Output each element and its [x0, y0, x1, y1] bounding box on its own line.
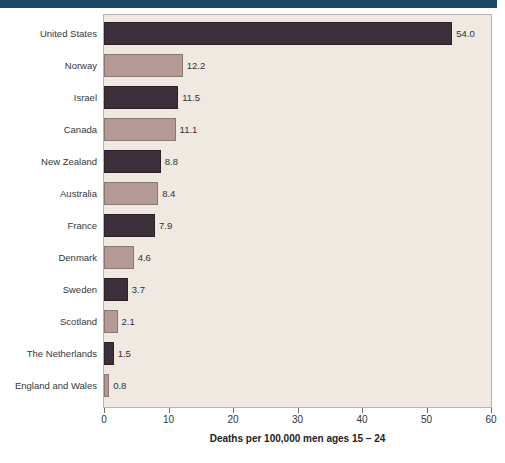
bar-value-label: 8.4 [162, 188, 175, 199]
table-row: France7.9 [0, 209, 505, 241]
bar [104, 310, 118, 333]
table-row: Canada11.1 [0, 113, 505, 145]
bar-group: 1.5 [104, 342, 131, 365]
table-row: Sweden3.7 [0, 273, 505, 305]
bar-value-label: 11.5 [182, 92, 200, 103]
bar-group: 11.5 [104, 86, 200, 109]
x-axis-tick [427, 408, 428, 413]
bar-group: 8.8 [104, 150, 178, 173]
category-label: Israel [0, 92, 97, 103]
bar [104, 54, 183, 77]
table-row: England and Wales0.8 [0, 369, 505, 401]
bar [104, 374, 109, 397]
category-label: Denmark [0, 252, 97, 263]
table-row: Scotland2.1 [0, 305, 505, 337]
x-axis-tick [233, 408, 234, 413]
bar [104, 22, 452, 45]
x-axis-tick [298, 408, 299, 413]
x-axis-tick-label: 0 [101, 414, 107, 425]
x-axis-tick-label: 10 [163, 414, 174, 425]
bar [104, 246, 134, 269]
bar-group: 7.9 [104, 214, 172, 237]
header-band [0, 0, 497, 8]
table-row: The Netherlands1.5 [0, 337, 505, 369]
x-axis-tick-label: 60 [485, 414, 496, 425]
x-axis: Deaths per 100,000 men ages 15 – 24 0102… [0, 408, 505, 463]
bar-group: 8.4 [104, 182, 175, 205]
category-label: Australia [0, 188, 97, 199]
bar [104, 86, 178, 109]
bar-value-label: 12.2 [187, 60, 206, 71]
table-row: New Zealand8.8 [0, 145, 505, 177]
x-axis-tick-label: 40 [356, 414, 367, 425]
category-label: Sweden [0, 284, 97, 295]
bar-group: 12.2 [104, 54, 205, 77]
bar-value-label: 2.1 [122, 316, 135, 327]
category-label: France [0, 220, 97, 231]
x-axis-title: Deaths per 100,000 men ages 15 – 24 [103, 433, 492, 444]
bar [104, 150, 161, 173]
bar-group: 54.0 [104, 22, 475, 45]
bar-rows: United States54.0Norway12.2Israel11.5Can… [0, 14, 505, 408]
x-axis-tick [104, 408, 105, 413]
category-label: England and Wales [0, 380, 97, 391]
x-axis-tick [491, 408, 492, 413]
bar-group: 4.6 [104, 246, 151, 269]
bar-value-label: 11.1 [180, 124, 198, 135]
table-row: Norway12.2 [0, 49, 505, 81]
bar-value-label: 8.8 [165, 156, 178, 167]
bar-chart: United States54.0Norway12.2Israel11.5Can… [0, 0, 505, 463]
category-label: Scotland [0, 316, 97, 327]
bar [104, 342, 114, 365]
x-axis-tick-label: 30 [292, 414, 303, 425]
category-label: The Netherlands [0, 348, 97, 359]
bar-group: 2.1 [104, 310, 135, 333]
bar-group: 11.1 [104, 118, 197, 141]
bar-value-label: 54.0 [456, 28, 475, 39]
bar-value-label: 1.5 [118, 348, 131, 359]
x-axis-tick [169, 408, 170, 413]
x-axis-tick-label: 50 [421, 414, 432, 425]
category-label: Canada [0, 124, 97, 135]
category-label: United States [0, 28, 97, 39]
bar [104, 118, 176, 141]
x-axis-tick [362, 408, 363, 413]
category-label: New Zealand [0, 156, 97, 167]
table-row: Israel11.5 [0, 81, 505, 113]
table-row: Denmark4.6 [0, 241, 505, 273]
table-row: United States54.0 [0, 17, 505, 49]
bar [104, 182, 158, 205]
table-row: Australia8.4 [0, 177, 505, 209]
bar-value-label: 0.8 [113, 380, 126, 391]
bar-value-label: 4.6 [138, 252, 151, 263]
bar-value-label: 3.7 [132, 284, 145, 295]
x-axis-tick-label: 20 [227, 414, 238, 425]
category-label: Norway [0, 60, 97, 71]
bar [104, 214, 155, 237]
bar-group: 0.8 [104, 374, 126, 397]
bar-value-label: 7.9 [159, 220, 172, 231]
bar [104, 278, 128, 301]
bar-group: 3.7 [104, 278, 145, 301]
